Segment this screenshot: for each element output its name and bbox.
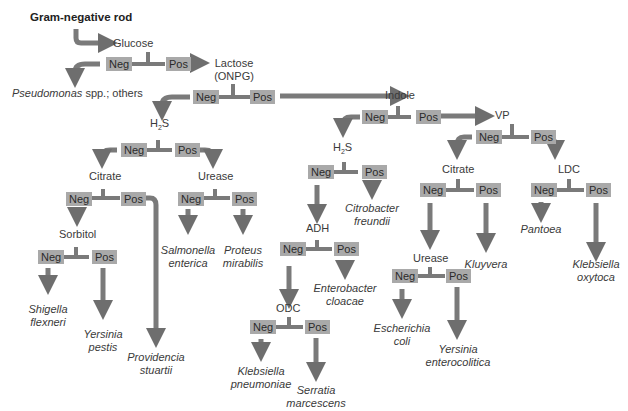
species: pneumoniae <box>231 378 292 390</box>
sorbitol-neg-badge: Neg <box>38 250 64 264</box>
test-ldc: LDC <box>558 163 580 176</box>
outcome-klebsiella-oxytoca: Klebsiellaoxytoca <box>572 258 619 284</box>
h2s-neg-badge: Neg <box>121 143 147 157</box>
outcome-providencia: Providenciastuartii <box>127 351 184 377</box>
genus: Proteus <box>224 244 262 256</box>
odc-pos-badge: Pos <box>305 320 330 334</box>
species: pestis <box>89 341 118 353</box>
urease-neg-badge: Neg <box>178 192 204 206</box>
genus: Klebsiella <box>237 365 284 377</box>
species: marcescens <box>286 397 345 409</box>
outcome-citrobacter: Citrobacterfreundii <box>345 202 399 228</box>
genus: Kluyvera <box>465 258 508 270</box>
test-indole: Indole <box>385 89 415 102</box>
h2s2-pos-badge: Pos <box>362 165 387 179</box>
citrate2-neg-badge: Neg <box>420 183 446 197</box>
vp-pos-badge: Pos <box>531 130 556 144</box>
ldc-neg-badge: Neg <box>531 183 557 197</box>
genus: Serratia <box>297 384 336 396</box>
citrate-pos-badge: Pos <box>121 192 146 206</box>
test-lactose: Lactose(ONPG) <box>214 57 254 83</box>
genus: Salmonella <box>161 244 215 256</box>
test-urease-left: Urease <box>198 170 233 183</box>
outcome-yersinia-pestis: Yersiniapestis <box>83 328 122 354</box>
genus: Escherichia <box>374 322 431 334</box>
ldc-pos-badge: Pos <box>586 183 611 197</box>
h2s-h: H <box>333 141 341 153</box>
odc-neg-badge: Neg <box>250 320 276 334</box>
test-odc: ODC <box>276 302 300 315</box>
lactose-pos-badge: Pos <box>250 90 275 104</box>
genus: Klebsiella <box>572 258 619 270</box>
species: enterocolitica <box>426 356 491 368</box>
genus: Yersinia <box>83 328 122 340</box>
outcome-shigella: Shigellaflexneri <box>28 303 67 329</box>
onpg-label: (ONPG) <box>214 70 254 82</box>
indole-pos-badge: Pos <box>416 110 441 124</box>
species: coli <box>394 335 411 347</box>
vp-neg-badge: Neg <box>476 130 502 144</box>
sorbitol-pos-badge: Pos <box>92 250 117 264</box>
test-citrate-right: Citrate <box>442 163 474 176</box>
outcome-klebsiella-pneumoniae: Klebsiellapneumoniae <box>231 365 292 391</box>
species: oxytoca <box>577 271 615 283</box>
h2s-pos-badge: Pos <box>175 143 200 157</box>
citrate2-pos-badge: Pos <box>476 183 501 197</box>
outcome-yersinia-enterocolitica: Yersiniaenterocolitica <box>426 343 491 369</box>
urease-pos-badge: Pos <box>232 192 257 206</box>
species: freundii <box>354 215 390 227</box>
genus: Enterobacter <box>314 282 377 294</box>
urease2-pos-badge: Pos <box>446 269 471 283</box>
genus: Pantoea <box>521 223 562 235</box>
genus: Providencia <box>127 351 184 363</box>
glucose-pos-badge: Pos <box>166 57 191 71</box>
test-citrate-left: Citrate <box>89 170 121 183</box>
outcome-kluyvera: Kluyvera <box>465 258 508 271</box>
outcome-pseudomonas: Pseudomonas spp.; others <box>12 87 143 100</box>
h2s-s: S <box>345 141 352 153</box>
species: mirabilis <box>223 257 263 269</box>
h2s2-neg-badge: Neg <box>308 165 334 179</box>
genus: Yersinia <box>438 343 477 355</box>
adh-neg-badge: Neg <box>280 242 306 256</box>
test-adh: ADH <box>306 222 329 235</box>
citrate-neg-badge: Neg <box>66 192 92 206</box>
urease2-neg-badge: Neg <box>392 269 418 283</box>
species: cloacae <box>326 295 364 307</box>
outcome-enterobacter: Enterobactercloacae <box>314 282 377 308</box>
pseudomonas-name: Pseudomonas <box>12 87 82 99</box>
outcome-proteus: Proteusmirabilis <box>223 244 263 270</box>
genus: Citrobacter <box>345 202 399 214</box>
species: flexneri <box>30 316 65 328</box>
test-h2s-right: H2S <box>333 141 352 158</box>
test-h2s-left: H2S <box>150 117 169 134</box>
adh-pos-badge: Pos <box>334 242 359 256</box>
species: stuartii <box>140 364 172 376</box>
lactose-neg-badge: Neg <box>193 90 219 104</box>
species: enterica <box>168 257 207 269</box>
test-sorbitol: Sorbitol <box>59 228 96 241</box>
glucose-neg-badge: Neg <box>106 57 132 71</box>
outcome-escherichia: Escherichiacoli <box>374 322 431 348</box>
test-vp: VP <box>495 109 510 122</box>
outcome-salmonella: Salmonellaenterica <box>161 244 215 270</box>
root-title: Gram-negative rod <box>30 11 132 24</box>
indole-neg-badge: Neg <box>362 110 388 124</box>
outcome-pantoea: Pantoea <box>521 223 562 236</box>
outcome-serratia: Serratiamarcescens <box>286 384 345 410</box>
h2s-h: H <box>150 117 158 129</box>
test-urease-right: Urease <box>413 252 448 265</box>
pseudomonas-rest: spp.; others <box>82 87 143 99</box>
test-glucose: Glucose <box>113 37 153 50</box>
lactose-label: Lactose <box>215 57 254 69</box>
genus: Shigella <box>28 303 67 315</box>
h2s-s: S <box>162 117 169 129</box>
